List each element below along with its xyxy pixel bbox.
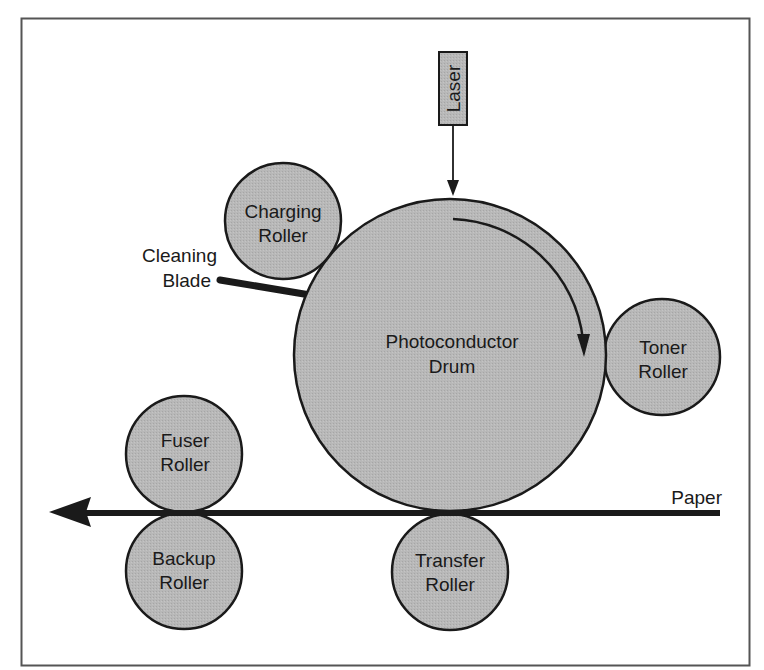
fuser-roller-label-line2: Roller xyxy=(160,454,210,475)
fuser-roller-label-line1: Fuser xyxy=(161,430,210,451)
laser-label: Laser xyxy=(443,64,464,112)
cleaning-blade-bar xyxy=(220,280,310,295)
paper-arrowhead-icon xyxy=(49,497,91,527)
transfer-roller-circle xyxy=(392,514,508,630)
toner-roller-label-line2: Roller xyxy=(638,361,688,382)
backup-roller-label-line2: Roller xyxy=(159,572,209,593)
cleaning-blade-label-line2: Blade xyxy=(162,270,211,291)
cleaning-blade-label-line1: Cleaning xyxy=(142,245,217,266)
drum-label-line2: Drum xyxy=(429,356,475,377)
backup-roller-circle xyxy=(126,513,242,629)
photoconductor-drum: Photoconductor Drum xyxy=(294,199,606,511)
toner-roller: Toner Roller xyxy=(604,299,720,415)
charging-roller-label-line2: Roller xyxy=(258,225,308,246)
fuser-roller: Fuser Roller xyxy=(126,396,242,512)
laser-unit: Laser xyxy=(439,52,467,196)
transfer-roller: Transfer Roller xyxy=(392,514,508,630)
paper-label: Paper xyxy=(671,487,722,508)
drum-circle xyxy=(294,199,606,511)
transfer-roller-label-line2: Roller xyxy=(425,574,475,595)
toner-roller-label-line1: Toner xyxy=(639,337,687,358)
transfer-roller-label-line1: Transfer xyxy=(415,550,486,571)
charging-roller-label-line1: Charging xyxy=(244,201,321,222)
drum-label-line1: Photoconductor xyxy=(385,331,519,352)
laser-beam-arrowhead-icon xyxy=(447,180,459,196)
backup-roller: Backup Roller xyxy=(126,513,242,629)
printer-diagram: Laser Paper Charging Roller Cleaning Bla… xyxy=(0,0,764,670)
backup-roller-label-line1: Backup xyxy=(152,548,215,569)
